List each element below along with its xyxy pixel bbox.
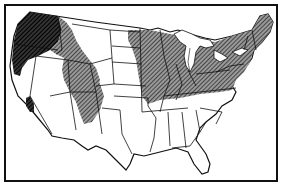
us-map: [0, 0, 285, 188]
